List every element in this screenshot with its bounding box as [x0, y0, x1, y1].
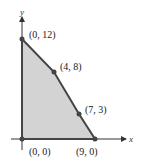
- vertex-4-8: [52, 70, 57, 75]
- label-4-8: (4, 8): [60, 61, 82, 73]
- vertex-9-0: [93, 137, 98, 142]
- label-7-3: (7, 3): [85, 104, 107, 116]
- vertex-7-3: [77, 112, 82, 117]
- feasible-region: [22, 39, 95, 139]
- x-axis-label: x: [128, 134, 133, 144]
- label-0-0: (0, 0): [29, 146, 51, 158]
- vertex-0-12: [20, 37, 25, 42]
- label-0-12: (0, 12): [29, 29, 56, 41]
- y-axis-label: y: [19, 7, 24, 17]
- vertex-0-0: [20, 137, 25, 142]
- label-9-0: (9, 0): [76, 146, 98, 158]
- feasible-region-chart: y x (0, 12) (4, 8) (7, 3) (0, 0) (9, 0): [0, 0, 142, 163]
